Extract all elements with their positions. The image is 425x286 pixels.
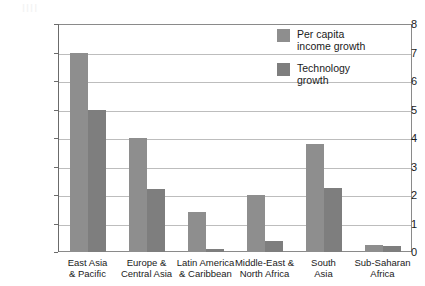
bar bbox=[383, 246, 401, 252]
bar bbox=[147, 189, 165, 252]
x-axis-label-line: Sub-Saharan bbox=[347, 257, 418, 268]
y-tick-mark bbox=[54, 252, 58, 253]
legend: Per capita income growthTechnology growt… bbox=[277, 28, 365, 96]
legend-item: Per capita income growth bbox=[277, 28, 365, 52]
bar bbox=[70, 53, 88, 253]
legend-label: Per capita income growth bbox=[297, 28, 365, 52]
bar bbox=[247, 195, 265, 252]
bar bbox=[365, 245, 383, 252]
bar-chart: IIII 012345678 East Asia& PacificEurope … bbox=[0, 0, 425, 286]
bar bbox=[324, 188, 342, 252]
x-axis-label: Sub-SaharanAfrica bbox=[347, 257, 418, 279]
bar bbox=[129, 138, 147, 252]
ghost-bleedthrough-text: IIII bbox=[22, 2, 38, 14]
bar bbox=[306, 144, 324, 252]
legend-swatch bbox=[277, 63, 290, 76]
bar bbox=[88, 110, 106, 253]
bar bbox=[265, 241, 283, 252]
bar bbox=[188, 212, 206, 252]
legend-label: Technology growth bbox=[297, 62, 350, 86]
x-axis-label-line: Africa bbox=[347, 268, 418, 279]
bar bbox=[206, 249, 224, 252]
legend-swatch bbox=[277, 29, 290, 42]
legend-item: Technology growth bbox=[277, 62, 365, 86]
